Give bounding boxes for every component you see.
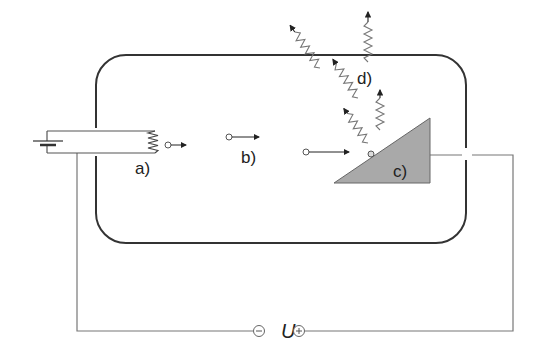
electron-a [165, 142, 186, 148]
label-a: a) [135, 159, 150, 178]
xray-tube-diagram: a) b) c) d) U [0, 0, 539, 357]
label-d: d) [357, 69, 372, 88]
label-c: c) [393, 162, 407, 181]
label-b: b) [241, 148, 256, 167]
negative-terminal-icon [254, 326, 265, 337]
electron-b [226, 134, 259, 140]
anode-target [334, 118, 430, 183]
positive-terminal-icon [294, 326, 305, 337]
electron-c [303, 149, 349, 155]
electron-impact [368, 151, 374, 157]
filament-coil-icon [148, 131, 158, 153]
battery-icon [33, 141, 63, 145]
